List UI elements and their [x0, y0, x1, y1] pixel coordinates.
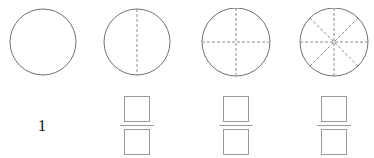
- whole-number-label: 1: [0, 92, 92, 158]
- answer-slot-eighths: [284, 92, 374, 158]
- answer-slot-halves: [87, 92, 187, 158]
- circle-eighths-graphic: [284, 8, 374, 80]
- fraction-bar: [219, 125, 253, 126]
- fraction-bar: [120, 125, 154, 126]
- numerator-box[interactable]: [321, 96, 347, 122]
- denominator-box[interactable]: [223, 129, 249, 155]
- fraction-input-quarters: [219, 96, 253, 155]
- circle-quarters: [186, 8, 286, 80]
- numerator-box[interactable]: [223, 96, 249, 122]
- circle-quarters-graphic: [186, 8, 286, 80]
- fraction-model-halves: [87, 0, 187, 158]
- fraction-input-halves: [120, 96, 154, 155]
- circle-whole-graphic: [0, 8, 92, 80]
- fraction-input-eighths: [317, 96, 351, 155]
- circle-eighths: [284, 8, 374, 80]
- fraction-bar: [317, 125, 351, 126]
- denominator-box[interactable]: [124, 129, 150, 155]
- fraction-model-quarters: [186, 0, 286, 158]
- fraction-worksheet: 1: [0, 0, 374, 158]
- fraction-model-whole: 1: [0, 0, 92, 158]
- denominator-box[interactable]: [321, 129, 347, 155]
- circle-halves-graphic: [87, 8, 187, 80]
- circle-whole: [0, 8, 92, 80]
- circle-halves: [87, 8, 187, 80]
- fraction-model-eighths: [284, 0, 374, 158]
- answer-slot-quarters: [186, 92, 286, 158]
- numerator-box[interactable]: [124, 96, 150, 122]
